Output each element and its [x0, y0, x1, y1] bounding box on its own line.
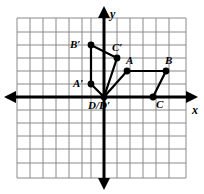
graph-canvas — [0, 0, 204, 194]
point-label-b: B — [165, 55, 172, 66]
y-axis-label: y — [110, 8, 115, 20]
point-label-a: A — [126, 55, 133, 66]
vertex-dot-b — [163, 68, 170, 75]
point-label-a-prime: A′ — [73, 78, 83, 89]
y-axis-top-arrowhead — [98, 6, 110, 18]
x-axis-left-arrowhead — [4, 91, 16, 103]
x-axis-label: x — [192, 104, 198, 116]
vertex-dot-c-prime — [114, 55, 121, 62]
y-axis-bottom-arrowhead — [98, 178, 110, 190]
vertex-dot-a-prime — [88, 81, 95, 88]
point-label-c-prime: C′ — [112, 42, 122, 53]
coordinate-plane-figure: B′ C′ A B A′ C D/D′ y x — [0, 0, 204, 194]
point-label-d-and-d-prime: D/D′ — [88, 100, 110, 111]
vertex-dot-b-prime — [88, 42, 95, 49]
point-label-c: C — [156, 99, 163, 110]
point-label-b-prime: B′ — [70, 39, 80, 50]
vertex-dot-a — [124, 68, 131, 75]
x-axis-right-arrowhead — [186, 91, 198, 103]
